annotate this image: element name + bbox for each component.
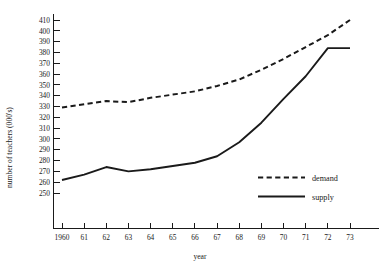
x-tick-label: 61 bbox=[80, 233, 88, 242]
legend-label-demand: demand bbox=[312, 174, 338, 183]
chart-background bbox=[0, 0, 388, 266]
chart-page: 2502602702802903003103203303403503603703… bbox=[0, 0, 388, 266]
y-tick-label: 250 bbox=[39, 189, 50, 198]
x-tick-label: 64 bbox=[147, 233, 155, 242]
y-axis-tick-labels: 2502602702802903003103203303403503603703… bbox=[39, 16, 50, 198]
x-tick-label: 71 bbox=[302, 233, 310, 242]
y-tick-label: 380 bbox=[39, 48, 50, 57]
y-tick-label: 260 bbox=[39, 178, 50, 187]
y-axis-title: number of teachers (000's) bbox=[5, 107, 14, 188]
y-tick-label: 350 bbox=[39, 81, 50, 90]
y-tick-label: 280 bbox=[39, 156, 50, 165]
y-tick-label: 290 bbox=[39, 145, 50, 154]
x-tick-label: 1960 bbox=[55, 233, 70, 242]
x-tick-label: 62 bbox=[103, 233, 111, 242]
x-tick-label: 70 bbox=[280, 233, 288, 242]
x-tick-label: 68 bbox=[236, 233, 244, 242]
x-axis-title: year bbox=[193, 252, 207, 261]
x-tick-label: 65 bbox=[169, 233, 177, 242]
y-tick-label: 340 bbox=[39, 91, 50, 100]
legend-label-supply: supply bbox=[312, 193, 335, 202]
y-tick-label: 370 bbox=[39, 59, 50, 68]
y-tick-label: 330 bbox=[39, 102, 50, 111]
y-tick-label: 310 bbox=[39, 124, 50, 133]
y-tick-label: 300 bbox=[39, 135, 50, 144]
y-tick-label: 270 bbox=[39, 167, 50, 176]
y-tick-label: 400 bbox=[39, 27, 50, 36]
x-tick-label: 63 bbox=[125, 233, 133, 242]
x-tick-label: 67 bbox=[213, 233, 221, 242]
y-tick-label: 360 bbox=[39, 70, 50, 79]
x-tick-label: 69 bbox=[258, 233, 266, 242]
y-tick-label: 390 bbox=[39, 37, 50, 46]
x-tick-label: 73 bbox=[346, 233, 354, 242]
x-tick-label: 72 bbox=[324, 233, 332, 242]
y-tick-label: 320 bbox=[39, 113, 50, 122]
line-chart: 2502602702802903003103203303403503603703… bbox=[0, 0, 388, 266]
y-tick-label: 410 bbox=[39, 16, 50, 25]
x-tick-label: 66 bbox=[191, 233, 199, 242]
